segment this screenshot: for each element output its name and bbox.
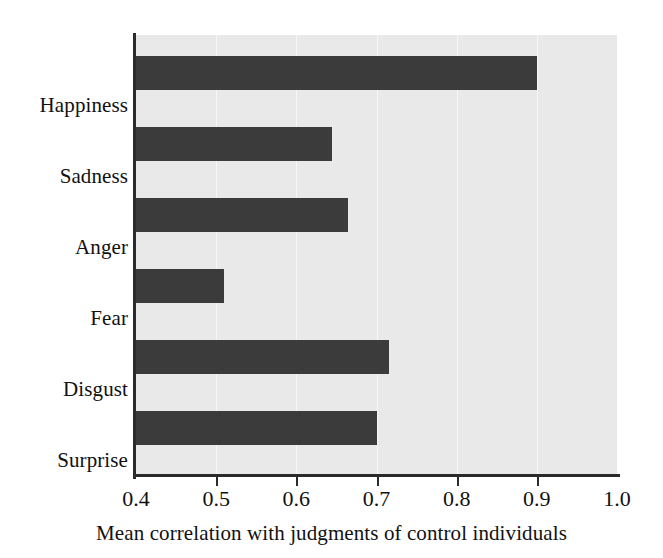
- bar-disgust: [136, 340, 389, 374]
- x-tick-label-0.7: 0.7: [347, 487, 407, 511]
- x-tick-label-0.6: 0.6: [266, 487, 326, 511]
- x-tick-0.5: [216, 477, 218, 486]
- bar-anger: [136, 198, 348, 232]
- gridline-0.9: [537, 35, 538, 477]
- y-axis-line: [133, 33, 136, 479]
- gridline-0.7: [377, 35, 378, 477]
- bar-sadness: [136, 127, 332, 161]
- x-tick-label-0.8: 0.8: [427, 487, 487, 511]
- x-tick-0.7: [377, 477, 379, 486]
- gridline-0.8: [457, 35, 458, 477]
- bar-fear: [136, 269, 224, 303]
- x-tick-label-1.0: 1.0: [587, 487, 647, 511]
- x-tick-label-0.4: 0.4: [106, 487, 166, 511]
- x-tick-label-0.5: 0.5: [186, 487, 246, 511]
- y-axis-label-fear: Fear: [0, 308, 128, 329]
- bar-surprise: [136, 411, 377, 445]
- bar-happiness: [136, 56, 537, 90]
- y-axis-label-anger: Anger: [0, 237, 128, 258]
- y-axis-label-disgust: Disgust: [0, 379, 128, 400]
- y-axis-category-labels: Happiness Sadness Anger Fear Disgust Sur…: [0, 35, 128, 477]
- plot-area: [136, 35, 617, 477]
- x-tick-0.8: [457, 477, 459, 486]
- y-axis-label-surprise: Surprise: [0, 450, 128, 471]
- x-tick-label-0.9: 0.9: [507, 487, 567, 511]
- x-tick-0.9: [537, 477, 539, 486]
- y-axis-label-sadness: Sadness: [0, 166, 128, 187]
- x-tick-0.6: [296, 477, 298, 486]
- bar-chart: Happiness Sadness Anger Fear Disgust Sur…: [0, 0, 663, 558]
- x-axis-title: Mean correlation with judgments of contr…: [0, 521, 663, 545]
- y-axis-label-happiness: Happiness: [0, 95, 128, 116]
